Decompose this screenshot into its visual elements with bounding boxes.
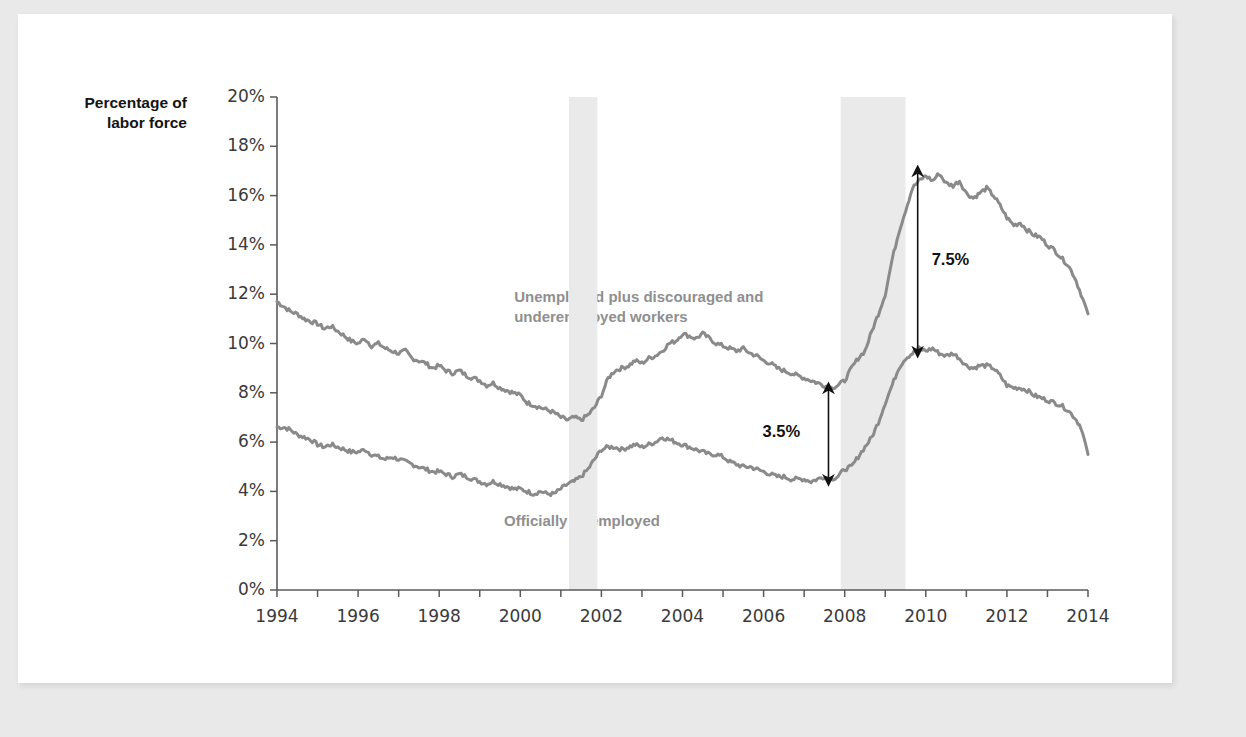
chart-plot-area (18, 14, 1172, 683)
x-tick-label: 2008 (805, 606, 885, 626)
y-tick-label: 12% (199, 283, 265, 303)
y-tick-label: 10% (199, 333, 265, 353)
tick-marks (270, 97, 1088, 597)
recession-bands (569, 97, 906, 590)
y-tick-label: 2% (199, 530, 265, 550)
x-tick-label: 1996 (318, 606, 398, 626)
x-tick-label: 2014 (1048, 606, 1128, 626)
figure-card: Percentage of labor force Unemployed plu… (18, 14, 1172, 683)
axis-lines (277, 97, 1088, 590)
y-tick-label: 0% (199, 579, 265, 599)
x-tick-label: 2010 (886, 606, 966, 626)
recession-band-0 (569, 97, 597, 590)
x-tick-label: 2004 (643, 606, 723, 626)
x-tick-label: 1998 (399, 606, 479, 626)
x-tick-label: 1994 (237, 606, 317, 626)
y-tick-label: 4% (199, 480, 265, 500)
annotation-label-7-5%: 7.5% (932, 250, 970, 269)
series-line-lower (277, 347, 1088, 496)
series-line-upper (277, 174, 1088, 421)
x-tick-label: 2002 (561, 606, 641, 626)
y-tick-label: 6% (199, 431, 265, 451)
unemployment-chart: Percentage of labor force Unemployed plu… (18, 14, 1172, 683)
y-tick-label: 14% (199, 234, 265, 254)
y-tick-label: 18% (199, 135, 265, 155)
series-lines (277, 174, 1088, 496)
x-tick-label: 2012 (967, 606, 1047, 626)
y-tick-label: 8% (199, 382, 265, 402)
y-tick-label: 16% (199, 185, 265, 205)
page-background: Percentage of labor force Unemployed plu… (0, 0, 1246, 737)
recession-band-1 (841, 97, 906, 590)
y-tick-label: 20% (199, 86, 265, 106)
x-tick-label: 2000 (480, 606, 560, 626)
x-tick-label: 2006 (724, 606, 804, 626)
annotation-label-3-5%: 3.5% (762, 422, 800, 441)
